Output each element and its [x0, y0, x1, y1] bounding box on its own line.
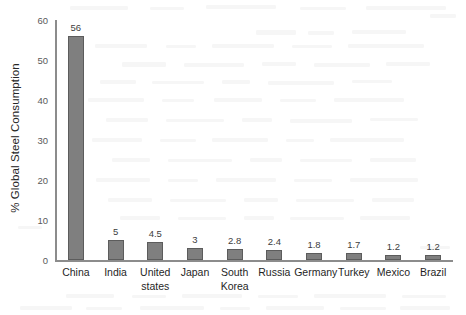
y-axis-tick-10: 10: [37, 215, 48, 226]
x-category-line: Japan: [175, 266, 215, 280]
bar-germany[interactable]: [306, 253, 322, 260]
bar-value-label: 1.7: [347, 239, 360, 250]
bar-value-label: 56: [71, 22, 82, 33]
bar-slot: 1.2: [413, 20, 453, 260]
bar-india[interactable]: [108, 240, 124, 260]
bar-turkey[interactable]: [346, 253, 362, 260]
bar-value-label: 4.5: [149, 228, 162, 239]
x-category-line: Germany: [294, 266, 334, 280]
x-category-germany: Germany: [294, 266, 334, 280]
bar-slot: 1.7: [334, 20, 374, 260]
bar-value-label: 2.4: [268, 236, 281, 247]
x-category-line: Mexico: [374, 266, 414, 280]
x-category-line: Brazil: [413, 266, 453, 280]
x-category-mexico: Mexico: [374, 266, 414, 280]
y-axis-tick-60: 60: [37, 15, 48, 26]
y-axis-tick-30: 30: [37, 135, 48, 146]
plot-area: 5654.532.82.41.81.71.21.2: [56, 20, 453, 260]
bar-russia[interactable]: [266, 250, 282, 260]
bar-slot: 5: [96, 20, 136, 260]
bar-slot: 3: [175, 20, 215, 260]
x-category-line: Turkey: [334, 266, 374, 280]
bar-slot: 1.2: [374, 20, 414, 260]
bar-value-label: 3: [192, 234, 197, 245]
x-category-turkey: Turkey: [334, 266, 374, 280]
x-category-line: Russia: [255, 266, 295, 280]
bar-value-label: 1.2: [387, 241, 400, 252]
x-category-russia: Russia: [255, 266, 295, 280]
x-category-line: United: [135, 266, 175, 280]
x-category-line: states: [135, 280, 175, 294]
bar-slot: 2.4: [255, 20, 295, 260]
x-axis-category-labels: ChinaIndiaUnitedstatesJapanSouthKoreaRus…: [56, 266, 453, 310]
bar-value-label: 2.8: [228, 235, 241, 246]
x-category-line: China: [56, 266, 96, 280]
bar-mexico[interactable]: [385, 255, 401, 260]
bar-japan[interactable]: [187, 248, 203, 260]
bar-slot: 4.5: [135, 20, 175, 260]
y-axis-tick-50: 50: [37, 55, 48, 66]
x-category-south-korea: SouthKorea: [215, 266, 255, 293]
bar-slot: 1.8: [294, 20, 334, 260]
bar-china[interactable]: [68, 36, 84, 260]
bar-slot: 56: [56, 20, 96, 260]
bar-south-korea[interactable]: [227, 249, 243, 260]
y-axis-title: % Global Steel Consumption: [4, 0, 26, 275]
bar-value-label: 1.8: [307, 239, 320, 250]
x-category-united-states: Unitedstates: [135, 266, 175, 293]
x-category-china: China: [56, 266, 96, 280]
bar-value-label: 5: [113, 226, 118, 237]
x-category-line: South: [215, 266, 255, 280]
steel-consumption-bar-chart: % Global Steel Consumption 0102030405060…: [0, 0, 466, 315]
y-axis-tick-0: 0: [43, 255, 48, 266]
x-category-line: Korea: [215, 280, 255, 294]
bar-united-states[interactable]: [147, 242, 163, 260]
y-axis-tick-20: 20: [37, 175, 48, 186]
bar-brazil[interactable]: [425, 255, 441, 260]
x-category-brazil: Brazil: [413, 266, 453, 280]
x-category-japan: Japan: [175, 266, 215, 280]
x-axis-line: [55, 260, 453, 262]
y-axis-title-text: % Global Steel Consumption: [9, 63, 21, 213]
y-axis-tick-40: 40: [37, 95, 48, 106]
x-category-line: India: [96, 266, 136, 280]
x-category-india: India: [96, 266, 136, 280]
y-axis-tick-labels: 0102030405060: [26, 20, 52, 260]
bar-slot: 2.8: [215, 20, 255, 260]
bar-value-label: 1.2: [427, 241, 440, 252]
